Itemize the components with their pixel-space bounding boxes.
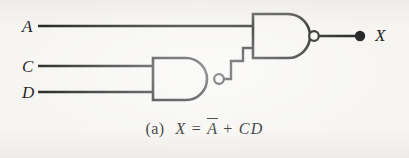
input-label-a: A xyxy=(22,18,32,35)
caption-or-operator: + xyxy=(223,120,233,137)
caption-term-cd: CD xyxy=(239,120,264,137)
caption-index: (a) xyxy=(146,120,165,137)
caption-term-a-complement: A xyxy=(207,120,218,138)
caption-equation: X = A + CD xyxy=(176,120,264,137)
gate-nand-cd-bubble xyxy=(214,74,224,84)
gate-nand-out-bubble xyxy=(309,31,319,41)
gate-nand-out-body xyxy=(253,14,310,58)
output-label-x: X xyxy=(375,27,385,44)
output-terminal-dot xyxy=(355,31,365,41)
logic-circuit-figure: A C D X (a)X = A + CD xyxy=(0,0,409,158)
input-label-d: D xyxy=(22,84,34,101)
wire-cd-to-output-gate xyxy=(224,48,253,79)
caption-output-symbol: X xyxy=(176,120,187,137)
input-label-c: C xyxy=(22,58,33,75)
caption-equals-sign: = xyxy=(192,120,202,137)
gate-nand-cd-body xyxy=(153,58,207,100)
figure-caption: (a)X = A + CD xyxy=(0,120,409,138)
